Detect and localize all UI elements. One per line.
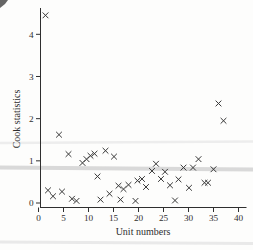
data-point-marker <box>43 13 48 18</box>
data-point-marker <box>133 198 138 203</box>
x-tick-label: 5 <box>61 213 66 223</box>
data-point-marker <box>118 197 123 202</box>
x-tick-label: 10 <box>84 213 94 223</box>
y-tick-label: 2 <box>29 114 34 124</box>
scan-bottom-band <box>0 242 253 244</box>
scan-line-artifact <box>0 142 253 144</box>
data-point-marker <box>172 198 177 203</box>
data-point-marker <box>158 176 163 181</box>
x-tick-label: 20 <box>134 213 144 223</box>
data-point-marker <box>95 174 100 179</box>
x-tick-label: 0 <box>36 213 41 223</box>
data-point-marker <box>139 176 144 181</box>
y-tick-label: 0 <box>29 198 34 208</box>
x-tick-label: 30 <box>184 213 194 223</box>
data-point-marker <box>98 197 103 202</box>
data-point-marker <box>167 183 172 188</box>
data-point-marker <box>186 185 191 190</box>
data-point-marker <box>126 182 131 187</box>
x-tick-label: 35 <box>209 213 219 223</box>
data-point-marker <box>59 189 64 194</box>
scatter-plot: 012340510152025303540 <box>0 0 253 250</box>
data-point-marker <box>103 148 108 153</box>
data-point-marker <box>153 161 158 166</box>
data-point-marker <box>66 151 71 156</box>
scatter-plot-figure: 012340510152025303540 Cook statistics Un… <box>0 0 253 250</box>
y-tick-label: 1 <box>29 156 34 166</box>
data-point-marker <box>45 188 50 193</box>
y-tick-label: 4 <box>29 30 34 40</box>
data-point-marker <box>221 118 226 123</box>
data-point-marker <box>111 154 116 159</box>
y-tick-label: 3 <box>29 72 34 82</box>
data-point-marker <box>50 194 55 199</box>
data-point-marker <box>116 183 121 188</box>
data-point-marker <box>143 184 148 189</box>
data-point-marker <box>216 101 221 106</box>
data-point-marker <box>196 157 201 162</box>
data-point-marker <box>107 191 112 196</box>
x-tick-label: 15 <box>109 213 119 223</box>
data-point-marker <box>56 132 61 137</box>
x-axis-title: Unit numbers <box>83 225 203 239</box>
y-axis-title: Cook statistics <box>10 59 24 179</box>
data-point-marker <box>135 178 140 183</box>
x-tick-label: 25 <box>159 213 169 223</box>
data-point-marker <box>176 177 181 182</box>
data-point-marker <box>205 180 210 185</box>
x-tick-label: 40 <box>234 213 244 223</box>
data-point-marker <box>121 186 126 191</box>
scan-corner-mark <box>0 0 8 8</box>
